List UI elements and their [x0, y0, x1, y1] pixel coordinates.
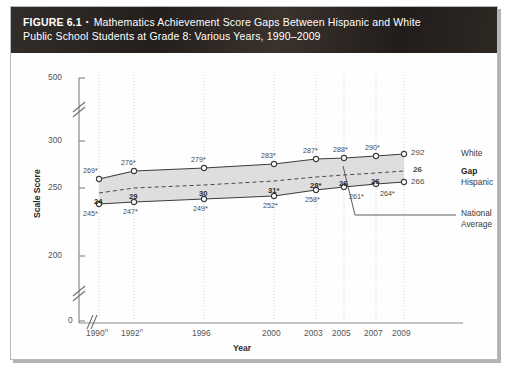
y-tick-300: 300	[48, 135, 62, 145]
point-label-white-1996: 279*	[191, 155, 206, 164]
point-label-white-2000: 283*	[261, 151, 276, 160]
chart-canvas	[11, 53, 497, 358]
gap-label-2009: 26	[413, 165, 422, 174]
legend-label-gap: Gap	[461, 166, 477, 176]
point-label-hispanic-1996: 249*	[193, 204, 208, 213]
x-tick-2007: 2007	[364, 328, 383, 338]
point-label-hispanic-1990: 245*	[83, 209, 98, 218]
gap-label-1996: 30	[199, 189, 207, 198]
x-tick-2009: 2009	[392, 328, 411, 338]
x-tick-1996: 1996	[192, 328, 211, 338]
point-label-hispanic-2005: 261*	[349, 192, 364, 201]
y-axis-title: Scale Score	[32, 169, 42, 218]
figure-title-line-1: FIGURE 6.1•Mathematics Achievement Score…	[23, 15, 485, 29]
point-label-white-2005: 288*	[333, 145, 348, 154]
gap-label-2005: 26	[339, 179, 347, 188]
point-label-hispanic-2009: 266	[411, 177, 424, 186]
figure-title-bar: FIGURE 6.1•Mathematics Achievement Score…	[11, 7, 497, 53]
x-tick-2005: 2005	[332, 328, 351, 338]
x-tick-1990: 1990n	[86, 328, 108, 338]
x-tick-1992: 1992n	[121, 328, 143, 338]
figure-title-line-2: Public School Students at Grade 8: Vario…	[23, 29, 485, 43]
point-label-white-2009: 292	[411, 148, 424, 157]
title-bullet-icon: •	[86, 15, 89, 29]
figure-screenshot: FIGURE 6.1•Mathematics Achievement Score…	[0, 0, 508, 370]
figure-title-part-1: Mathematics Achievement Score Gaps Betwe…	[94, 16, 421, 28]
gap-label-2000: 31*	[268, 186, 279, 195]
point-label-hispanic-2007: 264*	[380, 189, 395, 198]
figure-frame: FIGURE 6.1•Mathematics Achievement Score…	[10, 6, 498, 360]
legend-label-white: White	[461, 148, 482, 158]
point-label-hispanic-2000: 252*	[263, 201, 278, 210]
gap-label-1992: 29	[129, 192, 137, 201]
x-tick-2003: 2003	[304, 328, 323, 338]
plot-area: 500 300 250 200 0 Scale Score 1990n 1992…	[11, 53, 497, 358]
point-label-hispanic-1992: 247*	[123, 207, 138, 216]
x-axis-title: Year	[233, 343, 251, 353]
y-tick-250: 250	[48, 182, 62, 192]
point-label-hispanic-2003: 258*	[305, 195, 320, 204]
y-tick-200: 200	[48, 250, 62, 260]
gap-label-1990: 24	[94, 197, 102, 206]
y-tick-0: 0	[68, 315, 73, 325]
gap-label-2007: 26	[371, 177, 379, 186]
point-label-white-1990: 269*	[83, 166, 98, 175]
gap-label-2003: 28*	[310, 181, 321, 190]
legend-label-national-average-2: Average	[461, 219, 492, 229]
point-label-white-2003: 287*	[303, 146, 318, 155]
x-axis-break	[87, 315, 97, 329]
point-label-white-1992: 276*	[121, 158, 136, 167]
legend-label-national-average-1: National	[461, 208, 492, 218]
x-tick-2000: 2000	[262, 328, 281, 338]
point-label-white-2007: 290*	[365, 143, 380, 152]
figure-number: FIGURE 6.1	[23, 16, 82, 28]
y-tick-500: 500	[48, 72, 62, 82]
legend-label-hispanic: Hispanic	[461, 177, 493, 187]
